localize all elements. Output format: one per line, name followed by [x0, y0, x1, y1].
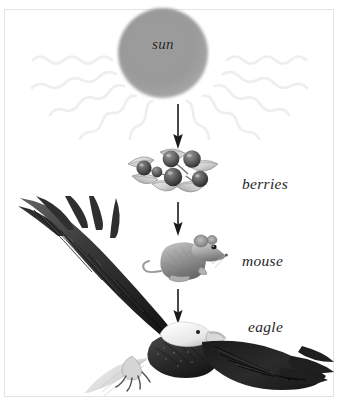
bald-eagle-illustration — [6, 196, 336, 396]
level-label-berries: berries — [242, 175, 288, 193]
sun-disc-icon — [118, 8, 208, 98]
level-label-mouse: mouse — [242, 252, 283, 270]
level-label-eagle: eagle — [248, 318, 283, 336]
food-chain-diagram: sun — [0, 0, 339, 407]
sun-label: sun — [118, 36, 208, 53]
